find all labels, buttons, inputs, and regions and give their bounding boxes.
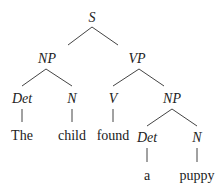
syntax-tree: SNPVPDetNVNPThechildfoundDetNapuppy	[0, 0, 220, 191]
node-s: S	[89, 10, 96, 25]
node-det1: Det	[11, 91, 33, 106]
node-n1: N	[66, 91, 77, 106]
edge-vp-np2	[139, 69, 164, 86]
edge-s-np1	[68, 27, 92, 45]
tree-nodes: SNPVPDetNVNPThechildfoundDetNapuppy	[11, 10, 215, 183]
node-n2: N	[191, 130, 202, 145]
node-np1: NP	[37, 51, 56, 66]
edge-s-vp	[92, 27, 118, 45]
edge-vp-v	[113, 69, 139, 86]
edge-np2-n2	[172, 109, 197, 126]
edge-np1-det1	[22, 69, 46, 86]
edge-np1-n1	[46, 69, 72, 86]
node-np2: NP	[162, 91, 181, 106]
node-det2: Det	[136, 130, 158, 145]
word-w3: found	[97, 128, 130, 143]
word-w4: a	[144, 168, 151, 183]
node-vp: VP	[128, 51, 146, 66]
edge-np2-det2	[147, 109, 172, 126]
word-w5: puppy	[180, 168, 215, 183]
word-w1: The	[11, 128, 33, 143]
node-v: V	[109, 91, 119, 106]
word-w2: child	[58, 128, 86, 143]
